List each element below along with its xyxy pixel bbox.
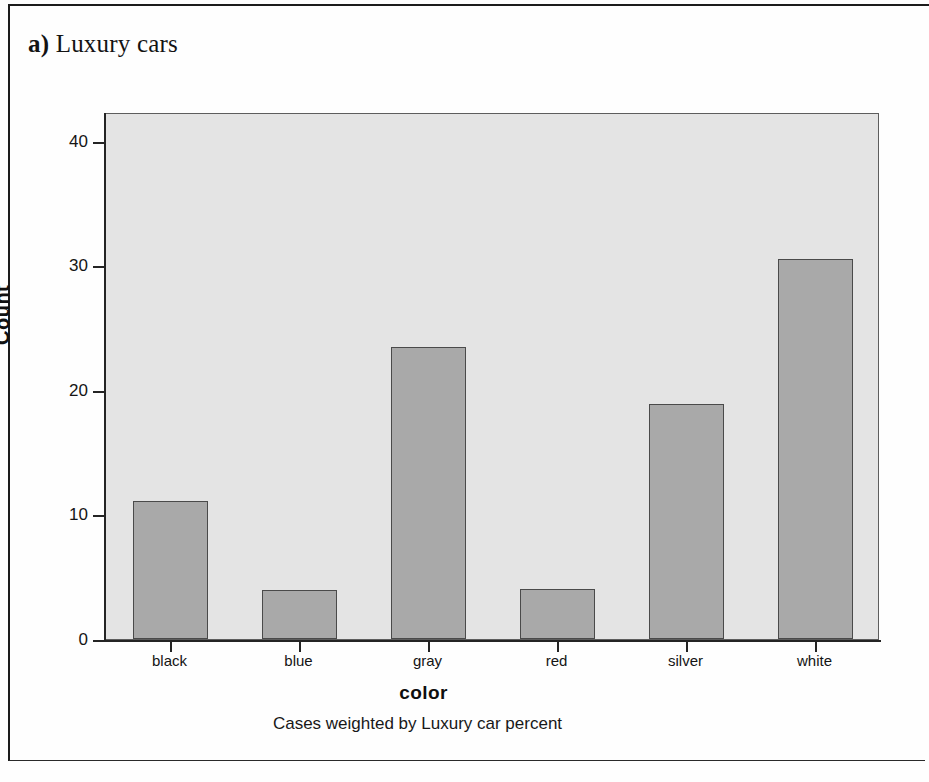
chart-footnote-text: Cases weighted by Luxury car percent	[273, 714, 562, 733]
bar-blue	[262, 590, 337, 639]
x-tick-silver	[686, 641, 688, 652]
bar-silver	[649, 404, 724, 639]
bar-white	[778, 259, 853, 639]
x-tick-label-gray: gray	[358, 652, 498, 669]
chart-footnote: Cases weighted by Luxury car percent	[0, 714, 929, 734]
y-tick-30	[93, 266, 104, 268]
x-axis-title: color	[0, 682, 929, 704]
bar-gray	[391, 347, 466, 639]
bars-container	[106, 114, 878, 639]
y-axis-tick-labels: 010203040	[28, 0, 88, 760]
y-tick-20	[93, 391, 104, 393]
x-axis-line	[104, 640, 881, 642]
bar-red	[520, 589, 595, 639]
y-tick-label-30: 30	[28, 256, 88, 276]
x-tick-label-silver: silver	[616, 652, 756, 669]
x-tick-label-black: black	[100, 652, 240, 669]
x-tick-red	[557, 641, 559, 652]
x-axis-title-text: color	[399, 682, 447, 703]
y-tick-label-10: 10	[28, 505, 88, 525]
bar-chart: 010203040 Count blackbluegrayredsilverwh…	[0, 0, 929, 760]
y-tick-0	[93, 640, 104, 642]
y-tick-40	[93, 142, 104, 144]
x-tick-white	[815, 641, 817, 652]
x-tick-black	[170, 641, 172, 652]
y-tick-10	[93, 515, 104, 517]
x-tick-label-red: red	[487, 652, 627, 669]
plot-area	[105, 113, 879, 640]
bar-black	[133, 501, 208, 639]
y-tick-label-20: 20	[28, 381, 88, 401]
x-tick-label-white: white	[745, 652, 885, 669]
x-tick-blue	[299, 641, 301, 652]
x-tick-gray	[428, 641, 430, 652]
y-tick-label-40: 40	[28, 132, 88, 152]
page-frame-bottom-rule	[9, 760, 925, 761]
scanned-page: a) Luxury cars 010203040 Count blackblue…	[0, 0, 929, 782]
y-axis-line	[104, 113, 106, 641]
y-axis-title: Count	[0, 285, 14, 345]
x-tick-label-blue: blue	[229, 652, 369, 669]
y-tick-label-0: 0	[28, 630, 88, 650]
